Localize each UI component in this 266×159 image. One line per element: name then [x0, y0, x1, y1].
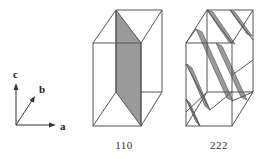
caption-110: 110 [115, 139, 133, 151]
c-arrowhead-icon [14, 83, 19, 90]
axis-triad [14, 83, 57, 128]
b-axis-label: b [39, 84, 45, 95]
b-axis-arrow [16, 99, 33, 125]
a-arrowhead-icon [49, 123, 56, 128]
a-axis-label: a [60, 121, 66, 132]
caption-222: 222 [210, 139, 228, 151]
crystal-plane-figure [0, 0, 266, 159]
plane-110-shaded [116, 10, 141, 126]
unit-cell-222 [186, 10, 253, 126]
unit-cell-110 [93, 10, 162, 126]
b-arrowhead-icon [30, 96, 36, 103]
c-axis-label: c [13, 69, 18, 80]
